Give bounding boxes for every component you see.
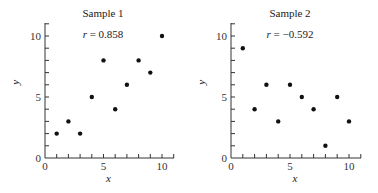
data-point (66, 119, 70, 123)
data-point (311, 107, 315, 111)
data-point (160, 34, 164, 38)
data-point (113, 107, 117, 111)
scatter-plots: Sample 1r = 0.85805100510xySample 2r = −… (0, 0, 378, 193)
data-point (125, 83, 129, 87)
data-point (55, 131, 59, 135)
data-point (90, 95, 94, 99)
x-tick-label: 5 (101, 160, 107, 172)
data-point (148, 70, 152, 74)
correlation-label: r = −0.592 (267, 28, 314, 40)
data-point (252, 107, 256, 111)
data-point (78, 131, 82, 135)
data-point (136, 58, 140, 62)
correlation-label: r = 0.858 (83, 28, 124, 40)
y-tick-label: 10 (216, 30, 228, 42)
data-point (288, 83, 292, 87)
data-point (264, 83, 268, 87)
x-axis-label: x (105, 172, 111, 184)
y-tick-label: 0 (36, 152, 42, 164)
r-value: = −0.592 (271, 28, 314, 40)
chart-title: Sample 1 (82, 7, 123, 19)
x-tick-label: 10 (157, 160, 169, 172)
data-point (347, 119, 351, 123)
x-axis-label: x (292, 172, 298, 184)
y-axis-label: y (9, 80, 21, 86)
y-tick-label: 10 (30, 30, 42, 42)
y-axis-label: y (195, 80, 207, 86)
x-tick-label: 10 (344, 160, 356, 172)
x-tick-label: 0 (42, 160, 48, 172)
data-point (335, 95, 339, 99)
data-point (300, 95, 304, 99)
data-point (241, 46, 245, 50)
y-tick-label: 5 (36, 91, 42, 103)
y-tick-label: 0 (222, 152, 228, 164)
data-point (276, 119, 280, 123)
chart-title: Sample 2 (269, 7, 310, 19)
r-value: = 0.858 (87, 28, 124, 40)
y-tick-label: 5 (222, 91, 228, 103)
x-tick-label: 0 (228, 160, 234, 172)
data-point (323, 144, 327, 148)
data-point (101, 58, 105, 62)
x-tick-label: 5 (287, 160, 293, 172)
